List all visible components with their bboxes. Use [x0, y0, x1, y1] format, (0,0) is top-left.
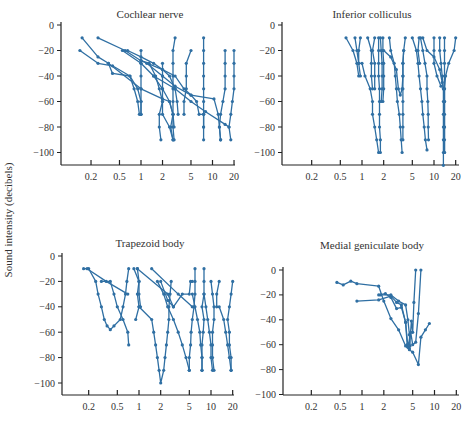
data-point	[97, 293, 100, 296]
data-point	[382, 74, 385, 77]
x-tick-label: 2	[158, 401, 163, 412]
data-point	[373, 125, 376, 128]
data-point	[185, 74, 188, 77]
data-point	[419, 336, 422, 339]
x-tick-label: 0.5	[111, 401, 124, 412]
data-point	[166, 305, 169, 308]
data-point	[206, 318, 209, 321]
y-tick-label: −60	[38, 96, 54, 107]
tuning-curve	[380, 38, 382, 102]
data-point	[371, 49, 374, 52]
data-point	[401, 62, 404, 65]
y-tick-label: 0	[50, 251, 55, 262]
x-tick-label: 2	[381, 171, 386, 182]
series-unit12	[411, 36, 429, 151]
data-point	[189, 49, 192, 52]
data-point	[353, 36, 356, 39]
data-point	[453, 49, 456, 52]
data-point	[189, 94, 192, 97]
data-point	[373, 62, 376, 65]
y-tick-label: −20	[259, 45, 275, 56]
data-point	[425, 49, 428, 52]
data-point	[222, 318, 225, 321]
tuning-curve	[383, 38, 384, 102]
x-tick-label: 20	[451, 171, 461, 182]
data-point	[401, 74, 404, 77]
data-point	[357, 62, 360, 65]
data-point	[126, 49, 129, 52]
data-point	[200, 356, 203, 359]
data-point	[82, 267, 85, 270]
data-point	[81, 36, 84, 39]
data-point	[398, 113, 401, 116]
data-point	[202, 138, 205, 141]
data-point	[382, 300, 385, 303]
panel-title: Cochlear nerve	[117, 8, 184, 20]
data-point	[426, 100, 429, 103]
data-point	[137, 305, 140, 308]
data-point	[401, 113, 404, 116]
data-point	[136, 267, 139, 270]
data-point	[170, 280, 173, 283]
data-point	[230, 369, 233, 372]
data-point	[171, 113, 174, 116]
data-point	[219, 138, 222, 141]
x-tick-label: 1	[137, 401, 142, 412]
y-tick-label: −100	[33, 147, 54, 158]
x-tick-label: 5	[410, 401, 415, 412]
data-point	[423, 62, 426, 65]
tuning-curve	[445, 38, 456, 153]
data-point	[139, 74, 142, 77]
data-point	[202, 87, 205, 90]
series-unit16	[226, 280, 234, 372]
y-tick-label: −80	[260, 364, 276, 375]
data-point	[202, 125, 205, 128]
data-point	[109, 280, 112, 283]
data-point	[402, 49, 405, 52]
figure: Cochlear nerve0−20−40−60−80−1000.20.5125…	[0, 0, 475, 423]
series-unit3	[357, 36, 380, 154]
data-point	[139, 87, 142, 90]
data-point	[425, 74, 428, 77]
data-point	[174, 87, 177, 90]
data-point	[156, 356, 159, 359]
data-point	[382, 49, 385, 52]
data-point	[177, 293, 180, 296]
x-tick-label: 20	[451, 401, 461, 412]
data-point	[200, 343, 203, 346]
data-point	[198, 113, 201, 116]
tuning-curve	[137, 269, 171, 383]
data-point	[444, 74, 447, 77]
data-point	[229, 113, 232, 116]
data-point	[218, 125, 221, 128]
data-point	[193, 267, 196, 270]
data-point	[125, 280, 128, 283]
data-point	[137, 280, 140, 283]
tuning-curve	[379, 38, 381, 153]
data-point	[439, 85, 442, 88]
data-point	[145, 62, 148, 65]
data-point	[401, 125, 404, 128]
y-tick-label: 0	[271, 265, 276, 276]
data-point	[172, 318, 175, 321]
data-point	[447, 62, 450, 65]
data-point	[121, 318, 124, 321]
data-point	[427, 138, 430, 141]
data-point	[389, 55, 392, 58]
data-point	[418, 74, 421, 77]
data-point	[438, 68, 441, 71]
data-point	[381, 36, 384, 39]
data-point	[133, 87, 136, 90]
data-point	[204, 110, 207, 113]
data-point	[121, 49, 124, 52]
y-tick-label: −100	[255, 389, 276, 400]
data-point	[159, 381, 162, 384]
data-point	[200, 305, 203, 308]
data-point	[171, 49, 174, 52]
data-point	[371, 100, 374, 103]
data-point	[159, 280, 162, 283]
data-point	[150, 267, 153, 270]
data-point	[211, 343, 214, 346]
x-tick-label: 5	[187, 401, 192, 412]
series-fiber11	[182, 49, 192, 116]
